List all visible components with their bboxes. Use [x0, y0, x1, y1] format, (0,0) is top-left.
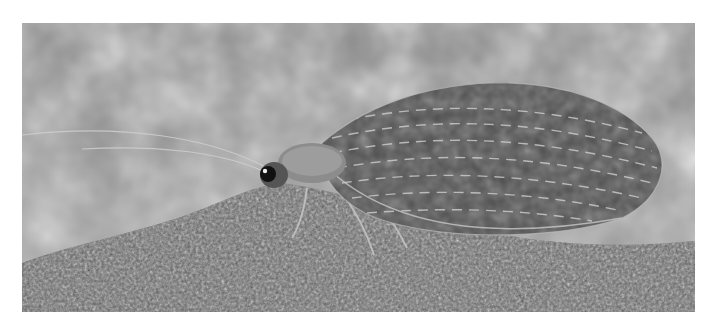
- photograph: [22, 23, 695, 312]
- eye: [260, 166, 276, 182]
- lacewing-photo: [22, 23, 695, 312]
- eye-highlight: [263, 169, 267, 173]
